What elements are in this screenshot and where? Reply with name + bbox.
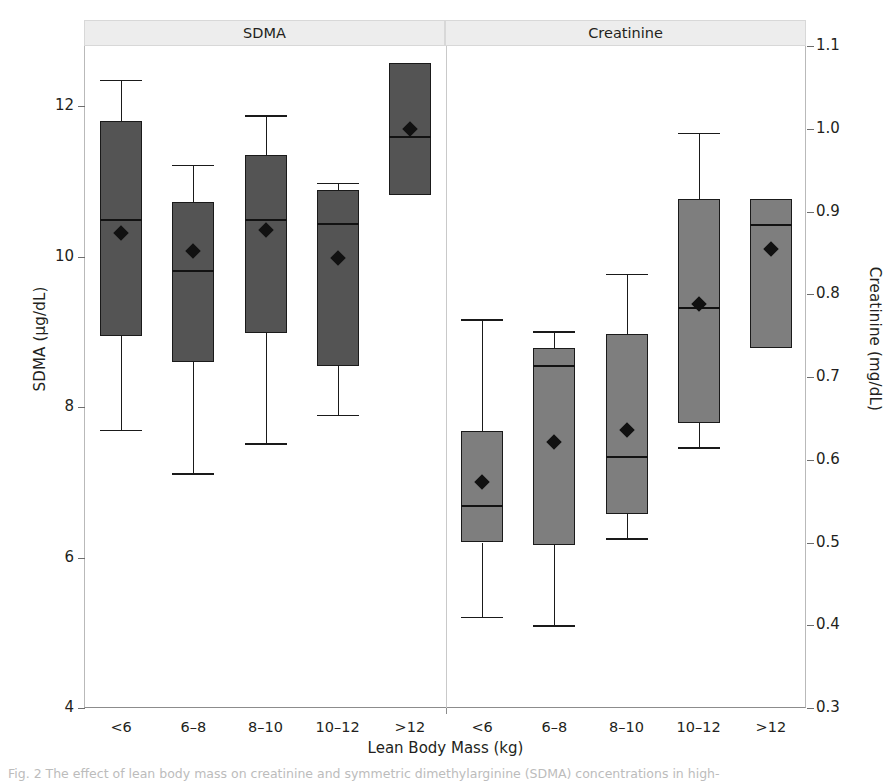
right-tick-label: 1.1 (816, 36, 840, 54)
x-tick-label: 6–8 (180, 719, 206, 735)
right-tick-label: 0.7 (816, 367, 840, 385)
left-tick-mark (78, 106, 85, 107)
x-tick-label: 8–10 (248, 719, 283, 735)
boxplot-figure: SDMA (µg/dL) Creatinine (mg/dL) Lean Bod… (0, 0, 891, 781)
right-tick-mark (807, 129, 814, 130)
left-tick-mark (78, 708, 85, 709)
right-tick-label: 0.9 (816, 202, 840, 220)
x-tick-label: 6–8 (541, 719, 567, 735)
right-tick-label: 0.3 (816, 698, 840, 716)
right-tick-label: 0.6 (816, 450, 840, 468)
right-tick-mark (807, 377, 814, 378)
left-tick-mark (78, 407, 85, 408)
plot-area: 4681012 0.30.40.50.60.70.80.91.01.1 <66–… (84, 46, 806, 708)
panel-header-sdma: SDMA (84, 20, 445, 46)
x-tick-label: 10–12 (677, 719, 721, 735)
x-tick-label: >12 (756, 719, 787, 735)
right-tick-mark (807, 708, 814, 709)
right-tick-mark (807, 543, 814, 544)
right-tick-label: 0.4 (816, 615, 840, 633)
panel-header-creatinine-label: Creatinine (588, 25, 663, 41)
x-tick-label: >12 (395, 719, 426, 735)
box-iqr (750, 199, 792, 348)
right-tick-mark (807, 460, 814, 461)
x-tick-mark (446, 708, 447, 714)
panel-header-sdma-label: SDMA (243, 25, 286, 41)
right-tick-mark (807, 294, 814, 295)
left-tick-label: 8 (64, 397, 74, 415)
left-axis-title: SDMA (µg/dL) (31, 229, 49, 449)
right-tick-mark (807, 625, 814, 626)
x-tick-label: 10–12 (316, 719, 360, 735)
left-tick-mark (78, 558, 85, 559)
x-tick-label: 8–10 (609, 719, 644, 735)
right-tick-label: 0.5 (816, 533, 840, 551)
boxplot-box (85, 46, 807, 708)
left-tick-label: 12 (55, 96, 74, 114)
x-axis-title: Lean Body Mass (kg) (0, 739, 891, 757)
left-tick-label: 10 (55, 247, 74, 265)
left-tick-label: 6 (64, 548, 74, 566)
left-tick-label: 4 (64, 698, 74, 716)
right-tick-mark (807, 46, 814, 47)
right-tick-label: 1.0 (816, 119, 840, 137)
right-tick-mark (807, 212, 814, 213)
left-tick-mark (78, 257, 85, 258)
right-axis-title: Creatinine (mg/dL) (866, 209, 884, 469)
x-tick-label: <6 (471, 719, 492, 735)
right-tick-label: 0.8 (816, 284, 840, 302)
median-line (750, 224, 792, 226)
figure-caption: Fig. 2 The effect of lean body mass on c… (8, 766, 883, 781)
x-tick-label: <6 (110, 719, 131, 735)
panel-header-creatinine: Creatinine (445, 20, 806, 46)
